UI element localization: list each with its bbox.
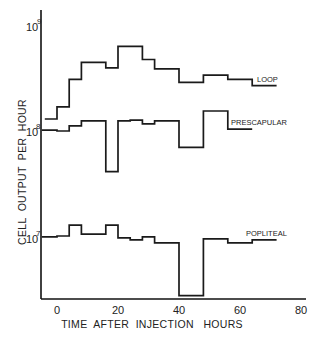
x-tick-label: 40 bbox=[173, 304, 185, 316]
x-tick-label: 0 bbox=[54, 304, 60, 316]
y-tick-exponent: 8 bbox=[36, 122, 41, 131]
series-line-prescapular bbox=[42, 111, 252, 172]
series-labels: LOOP PRESCAPULAR POPLITEAL bbox=[231, 75, 287, 238]
x-tick-label: 20 bbox=[112, 304, 124, 316]
series-line-popliteal bbox=[42, 225, 277, 296]
step-chart: 0 20 40 60 80 TIME AFTER INJECTION HOURS… bbox=[0, 0, 323, 337]
y-tick-exponent: 9 bbox=[37, 17, 42, 26]
y-tick-1e8: 10 8 bbox=[26, 122, 41, 138]
x-tick-label: 60 bbox=[234, 304, 246, 316]
series-line-loop bbox=[45, 46, 277, 119]
y-axis-title: CELL OUTPUT PER HOUR bbox=[16, 99, 28, 245]
series-label-popliteal: POPLITEAL bbox=[246, 229, 287, 238]
series-group bbox=[42, 46, 277, 295]
y-tick-exponent: 7 bbox=[36, 229, 41, 238]
series-label-loop: LOOP bbox=[257, 75, 278, 84]
x-axis-title: TIME AFTER INJECTION HOURS bbox=[61, 318, 243, 330]
series-label-prescapular: PRESCAPULAR bbox=[231, 118, 287, 127]
y-tick-1e7: 10 7 bbox=[26, 229, 41, 245]
x-tick-label: 80 bbox=[295, 304, 307, 316]
y-tick-1e9: 10 9 bbox=[26, 17, 42, 33]
axes bbox=[41, 10, 306, 299]
x-tick-labels: 0 20 40 60 80 bbox=[54, 304, 307, 316]
y-tick-labels: 10 9 10 8 10 7 bbox=[26, 17, 42, 245]
